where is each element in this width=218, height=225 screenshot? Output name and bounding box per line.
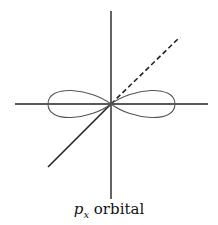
orbital-diagram [0, 0, 218, 225]
diagram-caption: px orbital [0, 200, 218, 220]
caption-subscript: x [83, 209, 89, 220]
y-axis-front [48, 104, 111, 167]
caption-word: orbital [94, 200, 144, 218]
caption-symbol: p [74, 200, 84, 218]
